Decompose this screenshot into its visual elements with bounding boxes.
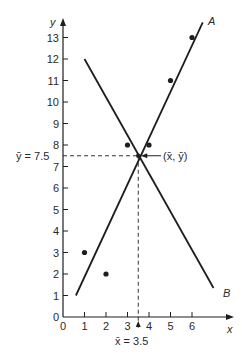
x-tick-label: 1 [81,320,87,332]
scatter-chart: xy 0123456012345678910111213 AB(x̄, ȳ)ȳ … [0,0,242,356]
y-tick-label: 11 [48,75,59,87]
mean-x-label: x̄ = 3.5 [115,335,148,347]
line-b [85,59,214,288]
y-tick-label: 4 [53,225,59,237]
data-point [82,250,87,255]
line-a-label: A [207,15,215,27]
regression-lines [76,22,214,295]
data-point [103,271,108,276]
y-axis-arrow-icon [60,18,66,26]
data-point [125,142,130,147]
y-tick-label: 12 [47,53,59,65]
x-axis-arrow-icon [226,314,234,320]
y-tick-label: 13 [47,32,59,44]
data-point [146,142,151,147]
y-tick-label: 0 [53,311,59,323]
mean-point-label: (x̄, ȳ) [163,150,187,162]
y-tick-label: 9 [53,118,59,130]
data-point [189,35,194,40]
x-tick-label: 3 [124,320,130,332]
mean-point [136,154,140,158]
data-point [168,78,173,83]
mean-x-arrow-icon [136,321,141,327]
y-tick-label: 3 [53,247,59,259]
y-tick-label: 8 [53,139,59,151]
mean-y-label: ȳ = 7.5 [16,150,49,162]
x-tick-label: 0 [60,320,66,332]
x-tick-label: 6 [189,320,195,332]
y-tick-label: 7 [53,161,59,173]
x-tick-label: 5 [167,320,173,332]
y-tick-label: 6 [53,182,59,194]
x-tick-label: 4 [146,320,152,332]
x-tick-label: 2 [103,320,109,332]
axes: xy [49,16,234,335]
y-tick-label: 10 [47,96,59,108]
y-axis-label: y [49,16,57,28]
line-b-label: B [223,287,230,299]
y-tick-label: 5 [53,204,59,216]
y-tick-label: 1 [53,290,59,302]
ticks: 0123456012345678910111213 [47,32,195,333]
x-axis-label: x [226,323,233,335]
y-tick-label: 2 [53,268,59,280]
